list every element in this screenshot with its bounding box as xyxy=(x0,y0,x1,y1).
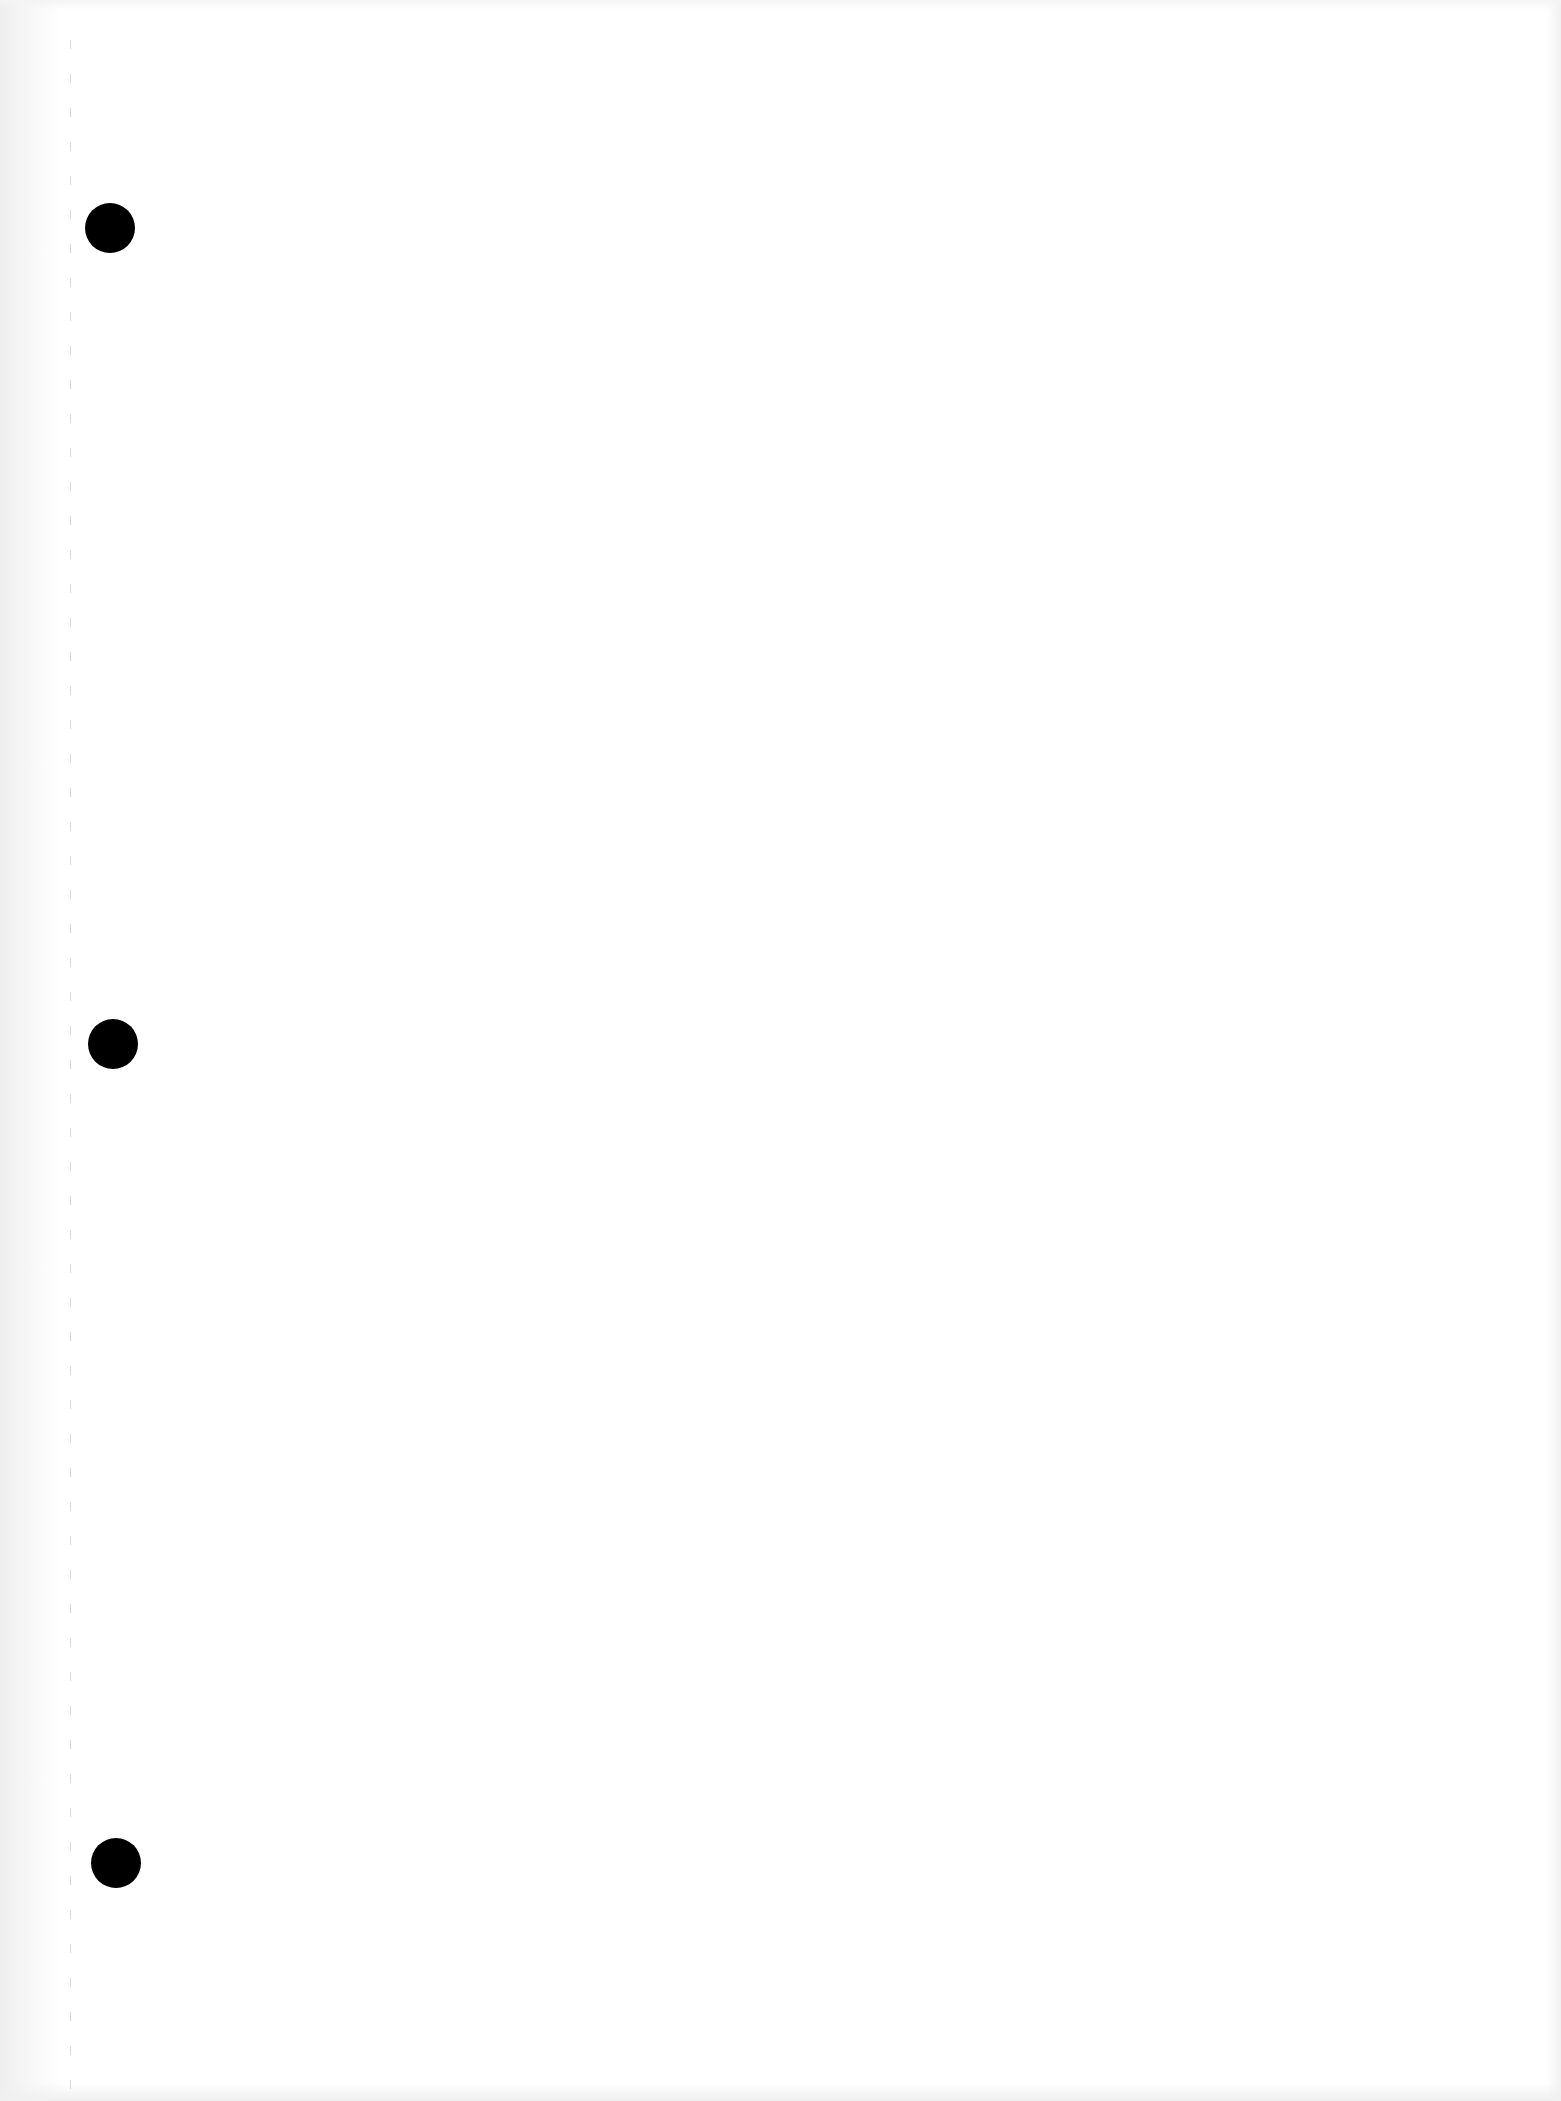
punch-hole-top xyxy=(85,203,135,253)
punch-hole-middle xyxy=(88,1019,138,1069)
right-edge-shadow xyxy=(1547,0,1561,2101)
bottom-edge-shadow xyxy=(0,2083,1561,2101)
top-edge-shadow xyxy=(0,0,1561,10)
blank-paper-sheet xyxy=(0,0,1561,2101)
punch-hole-bottom xyxy=(91,1838,141,1888)
perforation-line xyxy=(70,40,71,2100)
left-edge-shadow xyxy=(0,0,60,2101)
